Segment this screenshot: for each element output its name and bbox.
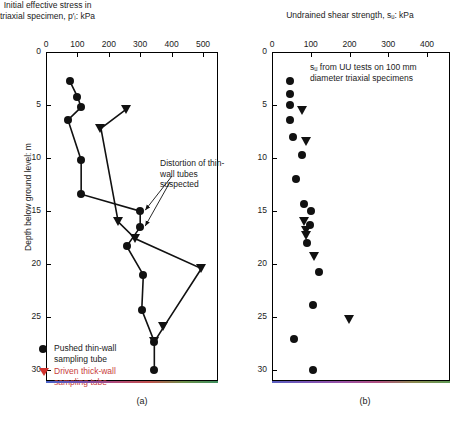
data-point-triangle xyxy=(149,337,159,346)
data-point-circle xyxy=(286,77,294,85)
data-point-circle xyxy=(309,301,317,309)
data-point-triangle xyxy=(113,217,123,226)
data-point-triangle xyxy=(196,264,206,273)
figure-root: Initial effective stress in triaxial spe… xyxy=(0,0,459,430)
data-point-triangle xyxy=(344,315,354,324)
data-point-circle xyxy=(138,306,146,314)
data-point-circle xyxy=(64,116,72,124)
data-overlay xyxy=(0,0,459,430)
data-point-circle xyxy=(73,93,81,101)
data-point-circle xyxy=(315,268,323,276)
data-point-triangle xyxy=(309,252,319,261)
data-point-triangle xyxy=(297,106,307,115)
data-point-triangle xyxy=(95,124,105,133)
annotation-arrow xyxy=(145,176,172,210)
data-point-circle xyxy=(66,77,74,85)
data-point-triangle xyxy=(301,226,311,235)
data-point-circle xyxy=(300,200,308,208)
data-point-triangle xyxy=(130,234,140,243)
data-point-circle xyxy=(123,242,131,250)
annotation-arrow xyxy=(145,182,170,226)
data-point-triangle xyxy=(158,322,168,331)
data-point-circle xyxy=(307,207,315,215)
data-point-triangle xyxy=(121,105,131,114)
data-point-circle xyxy=(303,239,311,247)
data-point-triangle xyxy=(301,137,311,146)
